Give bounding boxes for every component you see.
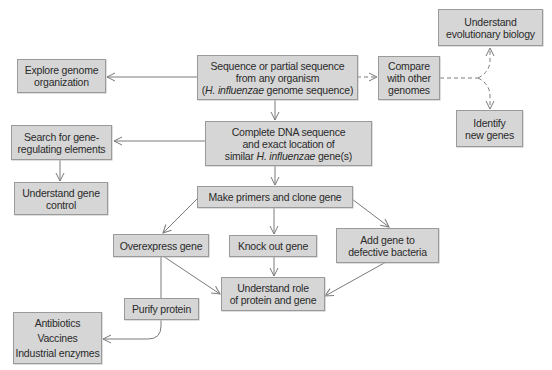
organism-name: H. influenzae [257,150,316,162]
node-products-vaccines: Vaccines [37,331,77,346]
node-identify: Identify new genes [456,110,523,147]
node-evolution: Understand evolutionary biology [438,9,543,46]
node-sequence-line2: from any organism [236,72,320,84]
edge-compare-evolution [478,48,490,78]
edge-overexpress-role [163,256,220,294]
node-complete-dna: Complete DNA sequence and exact location… [205,121,372,166]
node-compare-line2: with other [387,72,431,84]
edge-addgene-role [325,262,386,296]
node-products: Antibiotics Vaccines Industrial enzymes [13,312,102,364]
node-explore: Explore genome organization [17,59,106,93]
node-role-line2: of protein and gene [230,294,317,306]
node-identify-line2: new genes [465,129,514,141]
edge-primers-addgene [352,199,389,227]
node-sequence: Sequence or partial sequence from any or… [197,55,358,100]
node-genecontrol-line1: Understand gene [22,187,100,199]
node-identify-line1: Identify [473,117,505,129]
line3-suffix: genome sequence) [264,84,353,96]
flowchart-canvas: Sequence or partial sequence from any or… [0,0,552,370]
node-purify-line1: Purify protein [132,303,191,315]
edge-compare-identify [478,78,490,109]
node-knockout: Knock out gene [229,235,317,257]
node-add-gene: Add gene to defective bacteria [336,228,439,263]
node-products-antibiotics: Antibiotics [35,316,81,331]
node-purify: Purify protein [124,298,199,320]
edge-primers-overexpress [163,199,197,233]
node-addgene-line1: Add gene to [360,234,414,246]
node-addgene-line2: defective bacteria [348,246,427,258]
line3-suffix: gene(s) [315,150,352,162]
node-search: Search for gene- regulating elements [11,125,112,160]
node-role-line1: Understand role [237,282,309,294]
node-complete-line1: Complete DNA sequence [232,126,346,138]
node-primers: Make primers and clone gene [197,186,353,208]
edge-purify-products [103,319,161,339]
line3-prefix: similar [225,150,257,162]
node-compare-line1: Compare [388,60,430,72]
node-explore-line1: Explore genome [25,64,99,76]
node-gene-control: Understand gene control [14,182,108,215]
node-complete-line3: similar H. influenzae gene(s) [225,150,352,162]
organism-name: H. influenzae [205,84,264,96]
node-evolution-line2: evolutionary biology [446,28,535,40]
node-search-line1: Search for gene- [24,131,99,143]
node-products-enzymes: Industrial enzymes [16,346,100,361]
node-sequence-line1: Sequence or partial sequence [211,60,345,72]
node-role: Understand role of protein and gene [221,277,325,311]
node-compare-line3: genomes [388,84,430,96]
node-knockout-line1: Knock out gene [238,240,308,252]
node-search-line2: regulating elements [18,143,106,155]
node-evolution-line1: Understand [464,16,516,28]
node-complete-line2: and exact location of [242,138,334,150]
node-overexpress: Overexpress gene [113,234,209,257]
node-sequence-line3: (H. influenzae genome sequence) [202,84,353,96]
node-primers-line1: Make primers and clone gene [209,191,342,203]
node-overexpress-line1: Overexpress gene [120,240,203,252]
node-compare: Compare with other genomes [378,56,440,100]
node-genecontrol-line2: control [46,199,76,211]
node-explore-line2: organization [34,76,89,88]
